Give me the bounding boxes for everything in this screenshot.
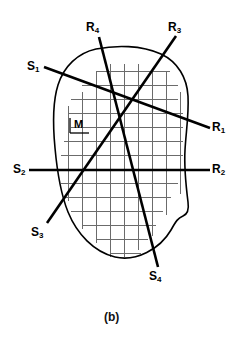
source-label-s3-sub: 3 <box>39 231 43 240</box>
ray-label-r2-sub: 2 <box>221 168 225 177</box>
ray-label-r1: R1 <box>212 121 225 133</box>
region-label-m: M <box>74 119 83 130</box>
source-label-s1-sub: 1 <box>35 65 39 74</box>
source-label-s2: S2 <box>13 163 25 175</box>
figure-caption: (b) <box>104 310 119 324</box>
projection-diagram <box>0 0 241 345</box>
ray-label-r2: R2 <box>212 163 225 175</box>
source-label-s4: S4 <box>149 270 161 282</box>
source-label-s1: S1 <box>27 60 39 72</box>
ray-label-r3-sub: 3 <box>177 26 181 35</box>
ray-label-r1-sub: 1 <box>221 126 225 135</box>
ray-label-r4-base: R <box>86 20 95 34</box>
grid-layer <box>61 64 183 257</box>
ray-label-r4: R4 <box>86 21 99 33</box>
ray-label-r1-base: R <box>212 120 221 134</box>
source-label-s2-base: S <box>13 162 21 176</box>
ray-label-r2-base: R <box>212 162 221 176</box>
ray-label-r3: R3 <box>168 21 181 33</box>
source-label-s3-base: S <box>31 225 39 239</box>
projection-line-s3-r3 <box>47 36 176 223</box>
ray-label-r4-sub: 4 <box>95 26 99 35</box>
source-label-s1-base: S <box>27 59 35 73</box>
projection-line-s1-r1 <box>44 67 210 128</box>
source-label-s2-sub: 2 <box>21 168 25 177</box>
source-label-s4-sub: 4 <box>157 275 161 284</box>
source-label-s3: S3 <box>31 226 43 238</box>
source-label-s4-base: S <box>149 269 157 283</box>
ray-label-r3-base: R <box>168 20 177 34</box>
